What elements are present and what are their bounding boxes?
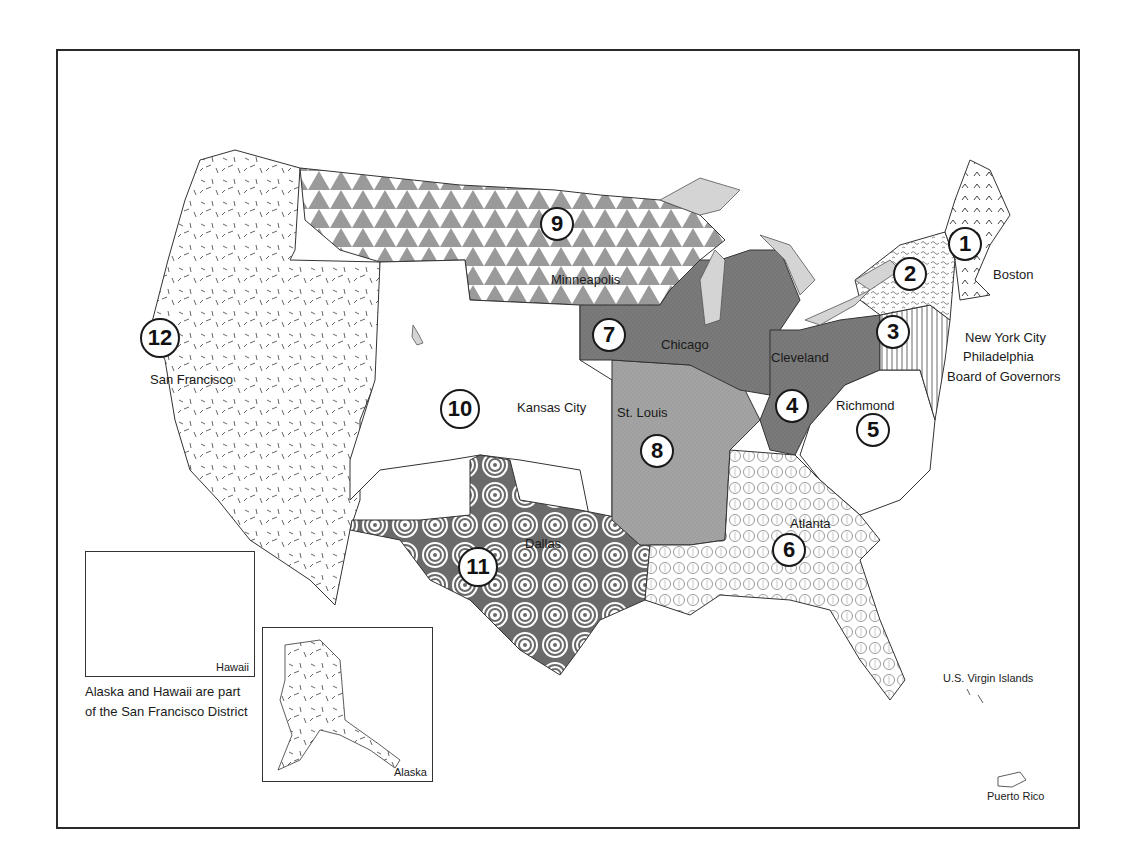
inset-note-line-2: of the San Francisco District <box>85 702 248 722</box>
hawaii-inset: Hawaii <box>85 551 255 677</box>
city-label-dallas: Dallas <box>525 536 561 552</box>
district-1-badge[interactable]: 1 <box>948 227 982 261</box>
city-label-philadelphia: Philadelphia <box>963 349 1034 365</box>
puerto-rico-label: Puerto Rico <box>987 790 1044 804</box>
us-map <box>0 0 1133 851</box>
district-6-badge[interactable]: 6 <box>772 533 806 567</box>
puerto-rico-shape <box>998 772 1026 787</box>
city-label-new-york: New York City <box>965 330 1046 346</box>
district-3-badge[interactable]: 3 <box>876 315 910 349</box>
district-11-badge[interactable]: 11 <box>458 547 498 587</box>
virgin-islands-shape <box>967 689 983 703</box>
city-label-richmond: Richmond <box>836 398 895 414</box>
alaska-inset: Alaska <box>262 627 433 782</box>
inset-note: Alaska and Hawaii are part of the San Fr… <box>85 682 248 722</box>
district-7-badge[interactable]: 7 <box>592 318 626 352</box>
district-8-badge[interactable]: 8 <box>640 434 674 468</box>
district-10-badge[interactable]: 10 <box>440 389 480 429</box>
alaska-label: Alaska <box>394 766 427 778</box>
city-label-boston: Boston <box>993 267 1033 283</box>
hawaii-label: Hawaii <box>216 661 249 673</box>
city-label-chicago: Chicago <box>661 337 709 353</box>
city-label-atlanta: Atlanta <box>790 516 830 532</box>
city-label-st-louis: St. Louis <box>617 405 668 421</box>
virgin-islands-label: U.S. Virgin Islands <box>943 672 1033 686</box>
city-label-san-francisco: San Francisco <box>150 372 233 388</box>
district-2-badge[interactable]: 2 <box>893 257 927 291</box>
board-of-governors-label: Board of Governors <box>947 369 1060 385</box>
district-9-badge[interactable]: 9 <box>540 207 574 241</box>
inset-note-line-1: Alaska and Hawaii are part <box>85 682 248 702</box>
city-label-cleveland: Cleveland <box>771 350 829 366</box>
district-5-badge[interactable]: 5 <box>856 413 890 447</box>
district-4-badge[interactable]: 4 <box>775 389 809 423</box>
district-12-badge[interactable]: 12 <box>140 318 180 358</box>
city-label-minneapolis: Minneapolis <box>551 272 620 288</box>
city-label-kansas-city: Kansas City <box>517 400 586 416</box>
